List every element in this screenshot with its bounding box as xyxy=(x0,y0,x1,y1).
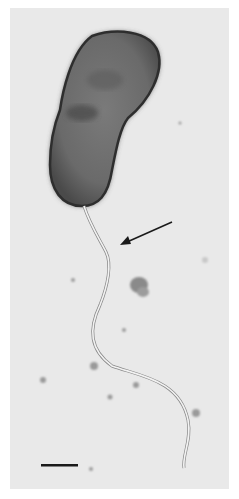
flagellum xyxy=(84,206,189,468)
bacterium-cell xyxy=(50,32,159,206)
micrograph xyxy=(0,0,239,499)
arrow-annotation xyxy=(120,222,172,245)
scale-bar xyxy=(41,464,78,467)
